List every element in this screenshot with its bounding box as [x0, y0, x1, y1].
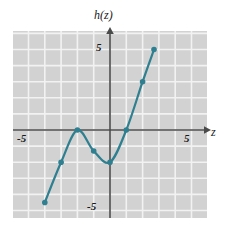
data-point	[140, 79, 146, 85]
y-axis-arrowhead	[106, 27, 114, 34]
data-point	[124, 127, 130, 133]
coordinate-plot	[0, 0, 227, 233]
data-point	[75, 127, 81, 133]
y-axis-label: h(z)	[94, 9, 113, 21]
x-axis-label: z	[211, 126, 216, 138]
data-point	[58, 159, 64, 165]
graph-figure: h(z) z 5 -5 -5 5	[0, 0, 227, 233]
data-point	[151, 47, 157, 53]
data-point	[91, 148, 97, 154]
x-tick-label-5: 5	[184, 133, 190, 144]
data-point	[107, 159, 113, 165]
x-tick-label-neg5: -5	[17, 133, 26, 144]
y-tick-label-neg5: -5	[87, 201, 96, 212]
data-point	[42, 200, 48, 206]
y-tick-label-5: 5	[96, 42, 102, 53]
x-axis-arrowhead	[204, 126, 211, 134]
